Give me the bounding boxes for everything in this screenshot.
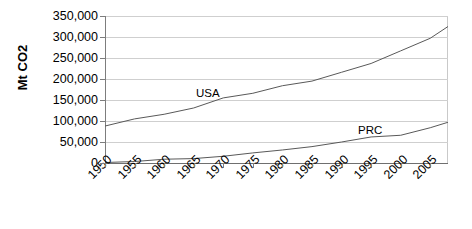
y-axis-tick-mark	[100, 79, 105, 80]
x-axis-tick-mark	[105, 163, 106, 168]
x-axis-tick-label: 1985	[292, 152, 322, 182]
x-axis-tick-label: 1965	[174, 152, 204, 182]
y-axis-tick-mark	[100, 16, 105, 17]
x-axis-tick-mark	[401, 163, 402, 168]
x-axis-tick-label: 1995	[351, 152, 381, 182]
y-axis-tick-mark	[100, 37, 105, 38]
x-axis-tick-mark	[135, 163, 136, 168]
x-axis-tick-label: 1970	[203, 152, 233, 182]
y-axis-tick-mark	[100, 100, 105, 101]
x-axis-tick-mark	[342, 163, 343, 168]
x-axis-tick-mark	[371, 163, 372, 168]
x-axis-tick-mark	[430, 163, 431, 168]
x-axis-tick-label: 1950	[85, 152, 115, 182]
x-axis-tick-mark	[312, 163, 313, 168]
x-axis-tick-mark	[194, 163, 195, 168]
x-axis-tick-label: 1975	[233, 152, 263, 182]
x-axis-tick-mark	[282, 163, 283, 168]
x-axis-tick-label: 1955	[115, 152, 145, 182]
y-axis-tick-mark	[100, 142, 105, 143]
x-axis-tick-label: 1990	[322, 152, 352, 182]
co2-emissions-line-chart: Mt CO2 350,000300,000250,000200,000150,0…	[0, 0, 472, 229]
y-axis-tick-mark	[100, 58, 105, 59]
x-axis-tick-mark	[223, 163, 224, 168]
x-axis-tick-mark	[164, 163, 165, 168]
y-axis-tick-mark	[100, 121, 105, 122]
x-axis-tick-label: 1960	[144, 152, 174, 182]
x-axis-tick-label: 1980	[262, 152, 292, 182]
x-axis-tick-label: 2005	[410, 152, 440, 182]
x-axis-tick-label: 2000	[381, 152, 411, 182]
x-axis-tick-label-group: 1950195519601965197019751980198519901995…	[0, 0, 472, 229]
x-axis-tick-mark	[253, 163, 254, 168]
